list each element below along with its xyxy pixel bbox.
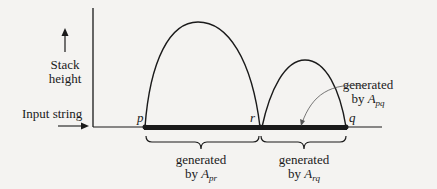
brace-pr	[146, 136, 259, 149]
annotation-rq-line1: generated	[279, 152, 330, 167]
leader-arrow-icon	[300, 119, 305, 126]
point-r-label: r	[250, 110, 256, 125]
up-arrow-icon	[62, 28, 69, 52]
brace-rq	[261, 136, 346, 149]
point-r-dot	[258, 125, 263, 130]
annotation-rq-line2: by Arq	[288, 166, 320, 183]
annotation-pq-line1: generated	[343, 77, 394, 92]
point-q-label: q	[349, 110, 356, 125]
y-axis-label-line2: height	[49, 71, 82, 86]
input-segment-pq	[144, 125, 347, 130]
point-q-dot	[344, 125, 349, 130]
x-axis-label: Input string	[22, 106, 83, 121]
annotation-pr-line2: by Apr	[185, 166, 218, 183]
y-axis-label-line1: Stack	[51, 57, 80, 72]
annotation-pq-line2: by Apq	[351, 91, 385, 108]
arch-pr	[145, 22, 260, 127]
annotation-pr-line1: generated	[176, 152, 227, 167]
right-arrow-icon	[58, 123, 89, 130]
point-p-label: p	[136, 110, 144, 125]
point-p-dot	[143, 125, 148, 130]
stack-height-diagram: Stack height Input string p r q generate…	[0, 0, 437, 189]
